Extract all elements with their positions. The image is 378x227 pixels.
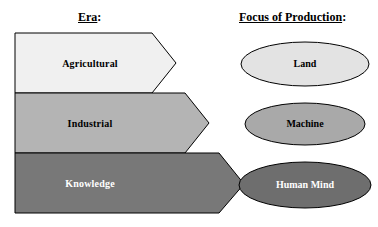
arrow-label-industrial: Industrial [40, 118, 140, 129]
diagram-shapes [0, 0, 378, 227]
ellipse-label-land: Land [255, 58, 355, 69]
arrow-label-agricultural: Agricultural [40, 58, 140, 69]
arrow-label-knowledge: Knowledge [40, 178, 140, 189]
ellipse-label-human-mind: Human Mind [252, 179, 358, 190]
ellipse-label-machine: Machine [255, 118, 355, 129]
diagram-canvas: Era: Focus of Production: Agricultural I… [0, 0, 378, 227]
